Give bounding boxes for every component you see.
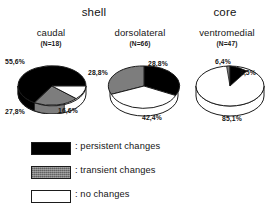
column-title-dorsolateral: dorsolateral xyxy=(104,27,176,38)
legend-item-persistent: : persistent changes xyxy=(31,142,211,156)
pie-chart-ventromedial xyxy=(192,62,268,120)
pct-none-ventromedial: 85,1% xyxy=(222,115,242,122)
legend-label-transient: : transient changes xyxy=(75,165,155,175)
pct-transient-ventromedial: 6,4% xyxy=(215,58,231,65)
pie-ventromedial-svg xyxy=(192,62,268,120)
column-n-caudal: (N=18) xyxy=(16,40,86,47)
group-title-shell: shell xyxy=(54,6,134,18)
column-n-dorsolateral: (N=66) xyxy=(104,40,176,47)
column-title-caudal: caudal xyxy=(16,27,86,38)
pie-chart-caudal xyxy=(14,58,90,114)
pct-transient-dorsolateral: 28,8% xyxy=(88,69,108,76)
group-title-core: core xyxy=(190,6,260,18)
pie-caudal-svg xyxy=(14,58,90,114)
legend-label-no-changes: : no changes xyxy=(75,189,129,199)
pie-chart-dorsolateral xyxy=(106,60,182,118)
pct-none-dorsolateral: 42,4% xyxy=(142,114,162,121)
figure-canvas: shell core caudal (N=18) dorsolateral (N… xyxy=(0,0,276,213)
pie-dorsolateral-svg xyxy=(106,60,182,118)
legend-item-transient: : transient changes xyxy=(31,166,211,180)
legend-swatch-persistent xyxy=(31,142,71,155)
legend-label-persistent: : persistent changes xyxy=(75,141,160,151)
pct-persistent-ventromedial: 8,5% xyxy=(240,69,256,76)
legend-item-no-changes: : no changes xyxy=(31,190,211,204)
pct-none-caudal: 16,6% xyxy=(58,107,78,114)
column-title-ventromedial: ventromedial xyxy=(190,27,264,38)
pct-persistent-dorsolateral: 28,8% xyxy=(148,60,168,67)
column-n-ventromedial: (N=47) xyxy=(190,40,264,47)
legend-swatch-transient xyxy=(31,166,71,179)
legend-swatch-no-changes xyxy=(31,190,71,203)
pct-transient-caudal: 27,8% xyxy=(5,108,25,115)
pct-persistent-caudal: 55,6% xyxy=(5,58,25,65)
